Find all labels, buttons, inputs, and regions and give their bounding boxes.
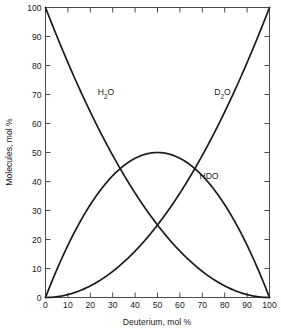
x-tick-label: 60 bbox=[175, 300, 185, 310]
x-tick-label: 0 bbox=[43, 300, 48, 310]
y-tick-label: 100 bbox=[27, 3, 42, 13]
x-tick-label: 40 bbox=[130, 300, 140, 310]
x-axis-label: Deuterium, mol % bbox=[123, 317, 192, 327]
y-tick-label: 40 bbox=[32, 177, 42, 187]
x-tick-label: 50 bbox=[153, 300, 163, 310]
y-tick-label: 20 bbox=[32, 235, 42, 245]
y-tick-label: 90 bbox=[32, 32, 42, 42]
y-tick-label: 50 bbox=[32, 148, 42, 158]
chart-svg: 0102030405060708090100 01020304050607080… bbox=[0, 0, 281, 331]
y-tick-label: 0 bbox=[37, 293, 42, 303]
y-axis-label: Molecules, mol % bbox=[4, 118, 14, 186]
x-tick-label: 10 bbox=[63, 300, 73, 310]
x-tick-label: 100 bbox=[262, 300, 277, 310]
x-tick-label: 90 bbox=[242, 300, 252, 310]
chart-figure: 0102030405060708090100 01020304050607080… bbox=[0, 0, 281, 331]
y-tick-label: 60 bbox=[32, 119, 42, 129]
chart-background bbox=[0, 0, 281, 331]
x-tick-label: 80 bbox=[220, 300, 230, 310]
x-tick-label: 20 bbox=[86, 300, 96, 310]
series-label-hdo: HDO bbox=[199, 171, 218, 181]
x-tick-label: 30 bbox=[108, 300, 118, 310]
y-tick-label: 10 bbox=[32, 264, 42, 274]
y-tick-label: 70 bbox=[32, 90, 42, 100]
y-tick-label: 80 bbox=[32, 61, 42, 71]
y-tick-label: 30 bbox=[32, 206, 42, 216]
x-tick-label: 70 bbox=[198, 300, 208, 310]
